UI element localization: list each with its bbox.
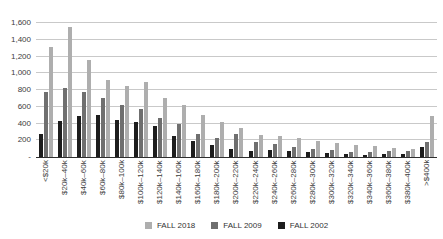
x-axis-labels: <$20k$20k–40k$40k–60k$60k–80k$80k–100k$1… <box>36 160 437 218</box>
bar-fall-2018 <box>278 136 282 157</box>
x-tick-cell: $120k–140k <box>151 160 170 218</box>
y-axis-labels: 1,6001,4001,2001,000800600400200- <box>0 23 31 157</box>
x-tick-cell: $380k–400k <box>399 160 418 218</box>
bar-fall-2002 <box>420 147 424 157</box>
bar-group <box>208 23 227 157</box>
x-tick-cell: $260k–280k <box>284 160 303 218</box>
bar-fall-2002 <box>344 154 348 157</box>
bar-fall-2018 <box>411 149 415 157</box>
bar-fall-2018 <box>87 60 91 157</box>
bar-fall-2009 <box>158 118 162 157</box>
x-tick-cell: $240k–260k <box>265 160 284 218</box>
bar-fall-2018 <box>106 80 110 157</box>
bar-fall-2009 <box>368 152 372 157</box>
bar-fall-2018 <box>316 141 320 157</box>
bar-fall-2002 <box>96 115 100 157</box>
bar-group <box>322 23 341 157</box>
bar-fall-2002 <box>115 120 119 157</box>
bar-fall-2009 <box>101 98 105 157</box>
legend-item-fall-2009: FALL 2009 <box>211 221 261 230</box>
bar-fall-2009 <box>234 134 238 157</box>
x-tick-cell: $340k–360k <box>361 160 380 218</box>
bar-group <box>265 23 284 157</box>
x-tick-cell: $160k–180k <box>189 160 208 218</box>
x-tick-label: $20k–40k <box>60 160 70 218</box>
x-tick-cell: $360k–380k <box>380 160 399 218</box>
bar-fall-2002 <box>287 151 291 157</box>
bar-fall-2009 <box>82 92 86 157</box>
bar-fall-2018 <box>430 116 434 157</box>
x-tick-cell: $320k–340k <box>342 160 361 218</box>
legend-swatch-fall-2002 <box>278 222 285 229</box>
bar-fall-2009 <box>349 152 353 157</box>
bar-group <box>74 23 93 157</box>
x-tick-cell: $200k–220k <box>227 160 246 218</box>
bar-fall-2009 <box>139 109 143 157</box>
x-tick-label: $160k–180k <box>193 160 203 218</box>
bar-group <box>380 23 399 157</box>
bar-fall-2009 <box>177 124 181 157</box>
x-tick-cell: $40k–60k <box>74 160 93 218</box>
bar-fall-2009 <box>425 142 429 157</box>
bar-fall-2002 <box>172 136 176 157</box>
bar-fall-2002 <box>58 121 62 157</box>
bar-fall-2002 <box>401 154 405 157</box>
x-tick-label: $300k–320k <box>327 160 337 218</box>
bar-chart: 1,6001,4001,2001,000800600400200- <$20k$… <box>0 0 443 239</box>
x-tick-cell: >$400k <box>418 160 437 218</box>
x-tick-label: $360k–380k <box>384 160 394 218</box>
x-tick-label: $140k–160k <box>174 160 184 218</box>
bar-fall-2002 <box>191 141 195 157</box>
bar-fall-2009 <box>254 142 258 157</box>
y-tick-label: 1,600 <box>11 19 31 27</box>
bar-fall-2018 <box>239 128 243 157</box>
y-tick-label: 1,200 <box>11 53 31 61</box>
bar-fall-2018 <box>392 148 396 157</box>
x-tick-label: $80k–100k <box>117 160 127 218</box>
legend-label-fall-2018: FALL 2018 <box>157 221 195 230</box>
bar-fall-2002 <box>306 152 310 157</box>
bar-fall-2009 <box>311 149 315 157</box>
bar-fall-2002 <box>134 122 138 157</box>
x-tick-label: $380k–400k <box>403 160 413 218</box>
bar-fall-2009 <box>196 134 200 157</box>
bar-group <box>151 23 170 157</box>
x-tick-cell: $60k–80k <box>93 160 112 218</box>
x-tick-cell: $220k–240k <box>246 160 265 218</box>
bar-fall-2002 <box>363 155 367 157</box>
bar-fall-2002 <box>210 145 214 157</box>
bar-fall-2018 <box>335 143 339 157</box>
bar-group <box>131 23 150 157</box>
bar-fall-2009 <box>63 88 67 157</box>
legend-item-fall-2018: FALL 2018 <box>145 221 195 230</box>
x-tick-label: $180k–200k <box>212 160 222 218</box>
bar-group <box>189 23 208 157</box>
legend-swatch-fall-2018 <box>145 222 152 229</box>
bar-fall-2009 <box>44 92 48 157</box>
y-tick-label: 1,400 <box>11 36 31 44</box>
bar-fall-2002 <box>268 150 272 157</box>
bar-fall-2002 <box>229 149 233 157</box>
bar-fall-2009 <box>330 150 334 157</box>
bar-groups <box>36 23 437 157</box>
x-tick-cell: $100k–120k <box>131 160 150 218</box>
bar-fall-2009 <box>292 147 296 157</box>
legend-item-fall-2002: FALL 2002 <box>278 221 328 230</box>
x-tick-label: >$400k <box>422 160 432 218</box>
x-tick-label: $280k–300k <box>308 160 318 218</box>
bar-group <box>93 23 112 157</box>
bar-fall-2018 <box>201 115 205 157</box>
bar-fall-2018 <box>163 98 167 157</box>
legend-label-fall-2002: FALL 2002 <box>290 221 328 230</box>
x-tick-cell: <$20k <box>36 160 55 218</box>
bar-group <box>303 23 322 157</box>
x-tick-label: $320k–340k <box>346 160 356 218</box>
bar-fall-2009 <box>406 151 410 157</box>
bar-fall-2002 <box>39 134 43 157</box>
bar-fall-2018 <box>354 145 358 157</box>
bar-fall-2018 <box>220 122 224 157</box>
bar-group <box>342 23 361 157</box>
x-tick-cell: $140k–160k <box>170 160 189 218</box>
y-tick-label: 600 <box>18 103 31 111</box>
x-tick-label: $340k–360k <box>365 160 375 218</box>
